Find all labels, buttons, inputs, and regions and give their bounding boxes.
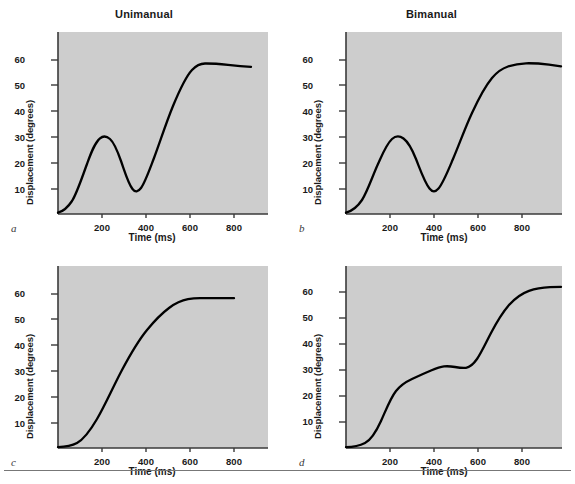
panel-b-ytick-30: 30 — [293, 132, 313, 143]
panel-c-plot-background — [58, 266, 268, 448]
figure-container: Unimanual Displacement (degrees) 60 — [0, 0, 575, 484]
panel-c-ytick-30: 30 — [5, 366, 25, 377]
panel-c-y-ticks — [51, 294, 58, 423]
panel-a-ytick-50: 50 — [5, 80, 25, 91]
panel-d-plot — [320, 262, 568, 452]
panel-d-ytick-40: 40 — [293, 338, 313, 349]
panel-a-plot — [32, 28, 272, 218]
panel-a-title: Unimanual — [0, 8, 288, 20]
panel-b-plot — [320, 28, 568, 218]
figure-divider — [4, 470, 571, 471]
panel-a: Unimanual Displacement (degrees) 60 — [0, 0, 288, 242]
panel-b-plot-background — [346, 32, 562, 214]
panel-c-ytick-50: 50 — [5, 314, 25, 325]
panel-c-ytick-60: 60 — [5, 288, 25, 299]
panel-b-ytick-50: 50 — [293, 80, 313, 91]
panel-a-ytick-10: 10 — [5, 184, 25, 195]
panel-a-ytick-40: 40 — [5, 106, 25, 117]
panel-d-letter: d — [299, 456, 305, 468]
panel-b-letter: b — [299, 222, 305, 234]
panel-a-ytick-30: 30 — [5, 132, 25, 143]
panel-a-letter: a — [11, 222, 17, 234]
panel-a-ytick-20: 20 — [5, 158, 25, 169]
panel-d-ytick-10: 10 — [293, 416, 313, 427]
panel-b-title: Bimanual — [288, 8, 575, 20]
panel-c-letter: c — [11, 456, 16, 468]
panel-d-xlabel: Time (ms) — [320, 466, 568, 477]
panel-c-xlabel: Time (ms) — [32, 466, 272, 477]
panel-c-ytick-40: 40 — [5, 340, 25, 351]
panel-d-ytick-50: 50 — [293, 312, 313, 323]
panel-d-y-ticks — [339, 292, 346, 422]
panel-c-ytick-10: 10 — [5, 418, 25, 429]
panel-c-ytick-20: 20 — [5, 392, 25, 403]
panel-c-plot — [32, 262, 272, 452]
panel-d: Displacement (degrees) 60 50 40 — [288, 242, 575, 472]
panel-b-ytick-20: 20 — [293, 158, 313, 169]
panel-d-ytick-20: 20 — [293, 390, 313, 401]
panel-d-plot-background — [346, 266, 562, 448]
panel-b-ytick-40: 40 — [293, 106, 313, 117]
panel-c: Displacement (degrees) 60 50 40 — [0, 242, 288, 472]
panel-b: Bimanual Displacement (degrees) 60 — [288, 0, 575, 242]
panel-b-ytick-60: 60 — [293, 54, 313, 65]
panel-a-plot-background — [58, 32, 268, 214]
panel-b-ytick-10: 10 — [293, 184, 313, 195]
panel-b-y-ticks — [339, 60, 346, 189]
panel-a-ytick-60: 60 — [5, 54, 25, 65]
panel-d-ytick-30: 30 — [293, 364, 313, 375]
panel-d-ytick-60: 60 — [293, 286, 313, 297]
panel-a-y-ticks — [51, 60, 58, 189]
